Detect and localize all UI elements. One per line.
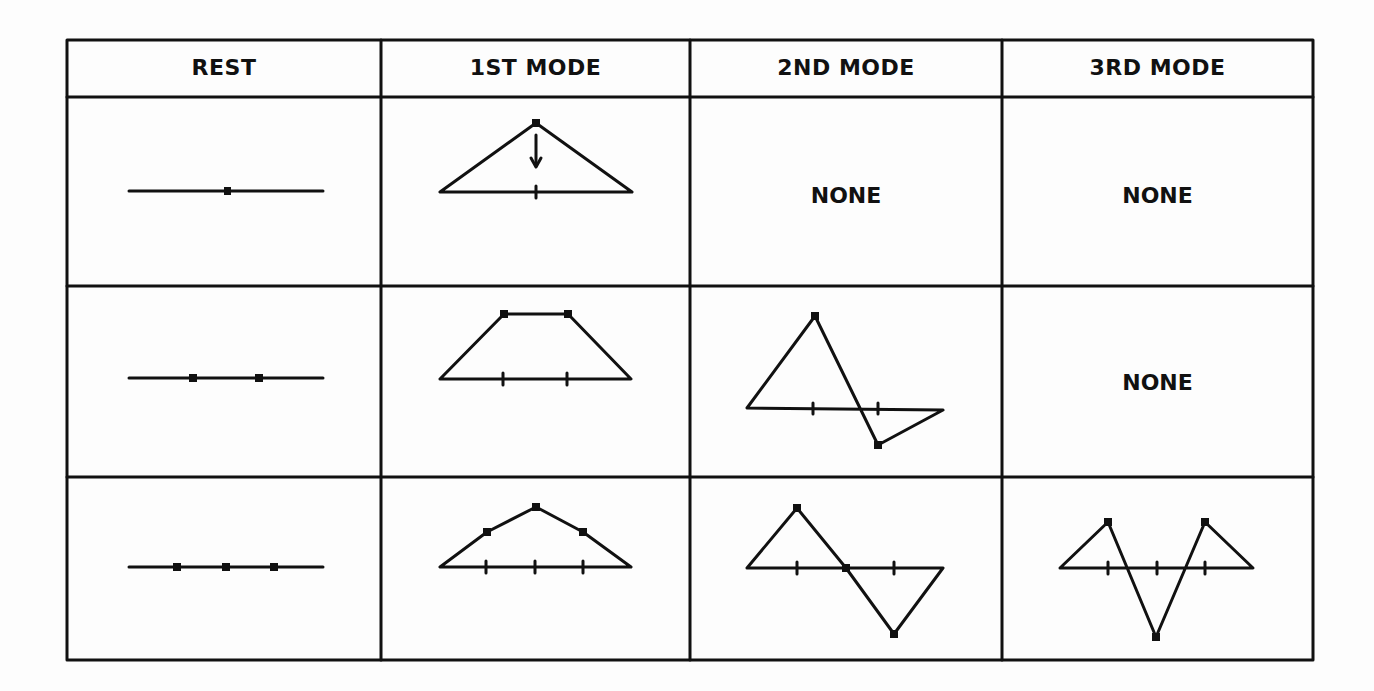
none-label-r1-mode2: NONE: [690, 183, 1002, 208]
rest-2-masses: [129, 374, 323, 382]
header-2nd-mode: 2ND MODE: [690, 55, 1002, 80]
header-3rd-mode: 3RD MODE: [1002, 55, 1313, 80]
mode1-3-masses: [440, 503, 631, 573]
mode3-3-masses: [1060, 518, 1253, 641]
mode1-1-mass: [440, 119, 632, 198]
header-1st-mode: 1ST MODE: [381, 55, 690, 80]
rest-3-masses: [129, 563, 323, 571]
none-label-r2-mode3: NONE: [1002, 370, 1313, 395]
mode-shapes-diagram: [0, 0, 1374, 691]
none-label-r1-mode3: NONE: [1002, 183, 1313, 208]
mode2-2-masses: [747, 312, 943, 449]
rest-1-mass: [129, 187, 323, 195]
header-rest: REST: [67, 55, 381, 80]
mode2-3-masses: [747, 504, 943, 638]
mode1-2-masses: [440, 310, 631, 385]
